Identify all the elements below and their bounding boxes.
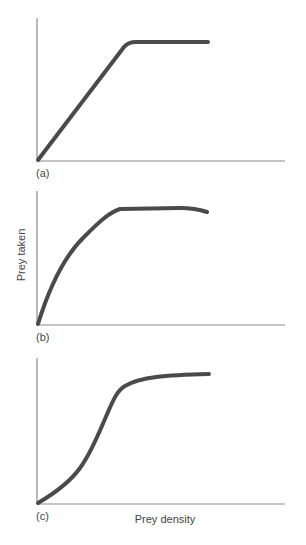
panel-label-b: (b) — [36, 331, 49, 343]
panel-label-a: (a) — [36, 167, 49, 179]
functional-response-figure: (a) (b) Prey taken (c) Prey density — [0, 0, 306, 545]
panel-b: (b) Prey taken — [15, 191, 285, 343]
curve-b — [38, 208, 207, 324]
panel-a: (a) — [36, 18, 285, 179]
x-axis-label: Prey density — [135, 513, 196, 525]
curve-c — [38, 374, 209, 503]
y-axis-label: Prey taken — [15, 229, 27, 282]
panel-label-c: (c) — [36, 510, 49, 522]
panel-c: (c) Prey density — [36, 358, 285, 525]
curve-a — [38, 42, 208, 160]
